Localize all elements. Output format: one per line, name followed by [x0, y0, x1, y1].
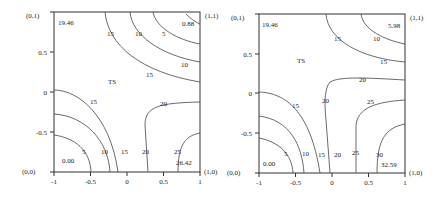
contour-label: 5 — [82, 148, 86, 156]
right-x-axis: -1 -0.5 0 0.5 1 — [256, 173, 407, 187]
contour-label: 10 — [135, 30, 143, 38]
left-x-axis: -1 -0.5 0 0.5 1 — [51, 172, 202, 186]
corner-label-bottom-right: (1,0) — [204, 168, 218, 176]
corner-label-bottom-left: (0,0) — [227, 169, 241, 177]
x-tick-label: -1 — [51, 178, 57, 186]
contour-label: 15 — [318, 151, 326, 159]
y-tick-label: -0.5 — [36, 129, 48, 137]
contour-label: 15 — [334, 35, 342, 43]
x-tick-label: 1 — [403, 179, 407, 187]
contour-line-5 — [153, 12, 200, 44]
contour-label: 10 — [373, 35, 381, 43]
left-y-axis: 0.5 0 -0.5 — [36, 12, 54, 172]
contour-label: 30 — [376, 151, 384, 159]
contour-label: 10 — [302, 150, 310, 158]
y-tick-label: 0.5 — [38, 49, 47, 57]
corner-label-top-left: (0,1) — [26, 12, 40, 20]
corner-value-top-left: 19.46 — [262, 21, 278, 29]
y-tick-label: 0.5 — [243, 51, 252, 59]
corner-label-bottom-left: (0,0) — [22, 168, 36, 176]
contour-label: 15 — [107, 30, 115, 38]
x-tick-label: 0 — [330, 179, 334, 187]
contour-line-20 — [145, 102, 200, 172]
contour-label: 20 — [142, 148, 150, 156]
right-plot-frame — [259, 14, 405, 173]
x-tick-label: 1 — [198, 178, 202, 186]
contour-label: 25 — [352, 149, 360, 157]
contour-label: 5 — [284, 150, 288, 158]
center-label: TS — [108, 78, 116, 86]
y-tick-label: 0 — [44, 89, 48, 97]
contour-label: 10 — [101, 148, 109, 156]
x-tick-label: 0.5 — [364, 179, 373, 187]
x-tick-label: -1 — [256, 179, 262, 187]
contour-label: 20 — [334, 151, 342, 159]
contour-figure: 0.5 0 -0.5 -1 -0.5 0 0.5 1 (0,1) (1,1) (… — [0, 0, 446, 201]
x-tick-label: 0.5 — [159, 178, 168, 186]
contour-label: 15 — [292, 102, 300, 110]
contour-label: 20 — [322, 97, 330, 105]
corner-value-top-right: 5.98 — [388, 22, 401, 30]
corner-label-top-left: (0,1) — [231, 14, 245, 22]
corner-value-top-left: 19.46 — [58, 19, 74, 27]
corner-label-top-right: (1,1) — [410, 14, 424, 22]
corner-value-top-right: 0.88 — [182, 20, 195, 28]
right-y-axis: 0.5 0 -0.5 — [241, 14, 259, 173]
contour-label: 15 — [121, 148, 129, 156]
x-tick-label: 0 — [125, 178, 129, 186]
corner-value-bottom-left: 0.00 — [62, 157, 75, 165]
contour-label: 10 — [181, 61, 189, 69]
contour-label: 20 — [359, 76, 367, 84]
x-tick-label: -0.5 — [85, 178, 97, 186]
right-contour-plot: 0.5 0 -0.5 -1 -0.5 0 0.5 1 (0,1) (1,1) (… — [227, 14, 424, 187]
x-tick-label: -0.5 — [290, 179, 302, 187]
contour-label: 20 — [160, 100, 168, 108]
corner-label-bottom-right: (1,0) — [409, 169, 423, 177]
contour-label: 5 — [162, 30, 166, 38]
contour-label: 25 — [174, 148, 182, 156]
y-tick-label: -0.5 — [241, 130, 253, 138]
corner-label-top-right: (1,1) — [205, 12, 219, 20]
corner-value-bottom-left: 0.00 — [263, 160, 276, 168]
contour-label: 15 — [90, 98, 98, 106]
y-tick-label: 0 — [249, 90, 253, 98]
contour-label: 15 — [146, 71, 154, 79]
left-contour-plot: 0.5 0 -0.5 -1 -0.5 0 0.5 1 (0,1) (1,1) (… — [22, 12, 219, 186]
center-label: TS — [297, 57, 305, 65]
contour-label: 25 — [367, 98, 375, 106]
contour-label: 15 — [380, 58, 388, 66]
corner-value-bottom-right: 32.59 — [381, 161, 397, 169]
